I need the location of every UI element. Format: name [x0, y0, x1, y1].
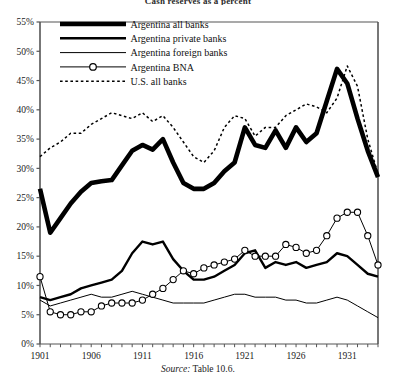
x-tick-label: 1931 [338, 351, 357, 361]
data-point-marker [170, 277, 176, 283]
legend-label: Argentina foreign banks [131, 47, 228, 58]
figure-title: Cash reserves as a percent [0, 0, 396, 5]
legend-item: Argentina all banks [60, 19, 209, 30]
x-tick-label: 1901 [31, 351, 50, 361]
data-point-marker [344, 209, 350, 215]
series-u-s-all-banks [40, 66, 378, 174]
data-point-marker [313, 247, 319, 253]
line-chart: 0%5%10%15%20%25%30%35%40%45%50%55% 19011… [0, 0, 396, 360]
y-tick-label: 45% [17, 76, 35, 86]
y-tick-label: 25% [17, 193, 35, 203]
data-point-marker [180, 268, 186, 274]
data-point-marker [191, 271, 197, 277]
legend-item: Argentina BNA [60, 62, 195, 73]
legend-label: Argentina private banks [131, 33, 227, 44]
y-tick-label: 0% [21, 339, 34, 349]
data-point-marker [88, 309, 94, 315]
data-point-marker [365, 233, 371, 239]
data-point-marker [293, 244, 299, 250]
data-point-marker [68, 312, 74, 318]
data-point-marker [150, 291, 156, 297]
y-tick-label: 15% [17, 251, 35, 261]
x-tick-label: 1921 [235, 351, 254, 361]
y-tick-label: 55% [17, 17, 35, 27]
data-point-marker [221, 259, 227, 265]
data-point-marker [232, 256, 238, 262]
data-point-marker [283, 241, 289, 247]
y-tick-label: 35% [17, 134, 35, 144]
source-note: Source: Table 10.6. [0, 364, 396, 374]
data-point-marker [57, 312, 63, 318]
data-point-marker [211, 262, 217, 268]
chart-series-layer [37, 66, 381, 318]
data-point-marker [98, 303, 104, 309]
data-point-marker [201, 265, 207, 271]
x-tick-label: 1916 [184, 351, 203, 361]
data-point-marker [242, 247, 248, 253]
series-argentina-all-banks [40, 69, 378, 233]
data-point-marker [109, 300, 115, 306]
data-point-marker [324, 233, 330, 239]
data-point-marker [119, 300, 125, 306]
legend-item: Argentina private banks [60, 33, 227, 44]
x-tick-label: 1926 [287, 351, 306, 361]
data-point-marker [47, 309, 53, 315]
data-point-marker [252, 253, 258, 259]
y-tick-label: 40% [17, 105, 35, 115]
legend-item: U.S. all banks [60, 76, 187, 87]
x-axis-tick-labels: 1901190619111916192119261931 [31, 351, 358, 361]
legend-label: U.S. all banks [131, 76, 187, 87]
legend-item: Argentina foreign banks [60, 47, 228, 58]
y-tick-label: 50% [17, 47, 35, 57]
data-point-marker [37, 274, 43, 280]
data-point-marker [160, 285, 166, 291]
y-tick-label: 10% [17, 281, 35, 291]
y-tick-label: 30% [17, 164, 35, 174]
data-point-marker [334, 215, 340, 221]
data-point-marker [303, 250, 309, 256]
figure-container: Cash reserves as a percent 0%5%10%15%20%… [0, 0, 396, 385]
source-label: Source: [161, 364, 190, 374]
data-point-marker [375, 262, 381, 268]
legend-label: Argentina all banks [131, 19, 209, 30]
y-tick-label: 5% [21, 310, 34, 320]
y-tick-label: 20% [17, 222, 35, 232]
data-point-marker [78, 309, 84, 315]
data-point-marker [139, 297, 145, 303]
legend-label: Argentina BNA [131, 62, 195, 73]
data-point-marker [129, 300, 135, 306]
series-argentina-private-banks [40, 242, 378, 301]
source-text: Table 10.6. [193, 364, 235, 374]
y-axis-tick-labels: 0%5%10%15%20%25%30%35%40%45%50%55% [17, 17, 35, 349]
x-tick-label: 1911 [133, 351, 152, 361]
data-point-marker [272, 253, 278, 259]
chart-legend: Argentina all banksArgentina private ban… [60, 19, 228, 87]
data-point-marker [262, 253, 268, 259]
x-tick-label: 1906 [82, 351, 101, 361]
data-point-marker [354, 209, 360, 215]
legend-marker [90, 64, 97, 71]
